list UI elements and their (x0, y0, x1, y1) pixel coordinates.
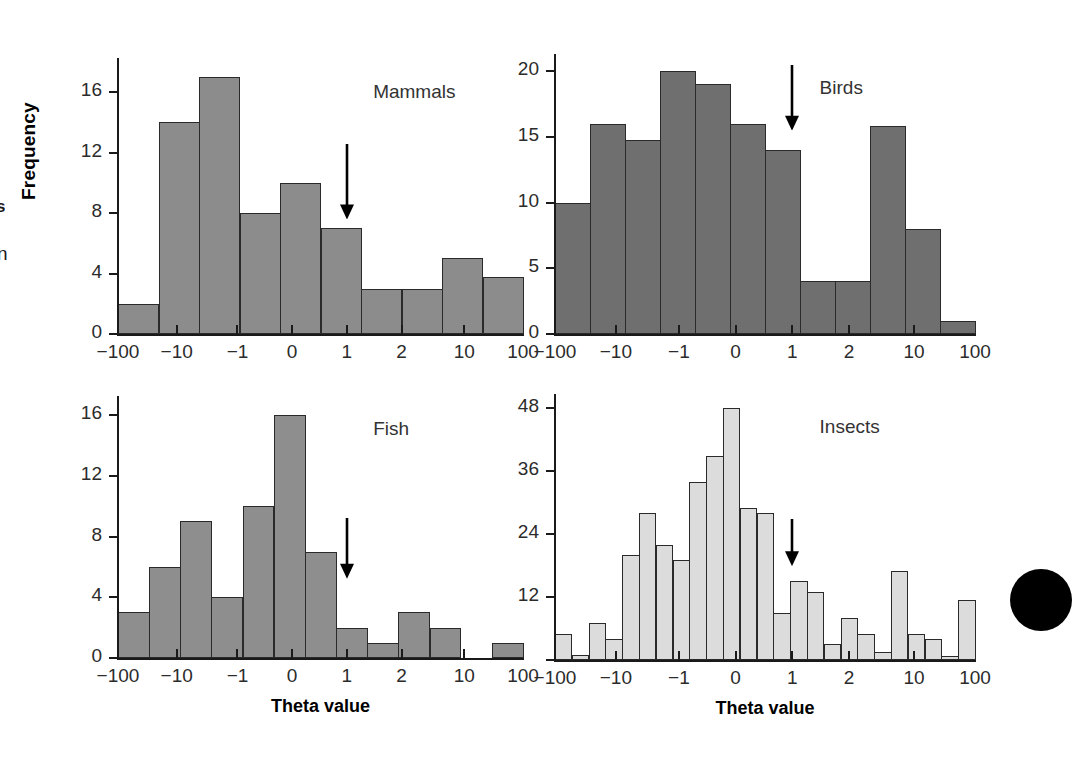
bar (773, 613, 790, 660)
y-tick-label: 24 (479, 521, 539, 543)
y-tick (546, 533, 555, 535)
y-tick (546, 407, 555, 409)
x-tick (401, 325, 403, 334)
bar (305, 552, 337, 658)
bar (689, 482, 706, 660)
x-axis-line (554, 334, 976, 336)
plot-area-insects: 12243648−100−10−101210100InsectsTheta va… (555, 398, 975, 660)
bar (639, 513, 656, 660)
bar (660, 71, 696, 334)
x-tick (346, 649, 348, 658)
down-arrow-icon (336, 144, 358, 220)
bar (430, 628, 462, 658)
y-tick (109, 475, 118, 477)
y-tick (109, 414, 118, 416)
y-tick-label: 0 (479, 321, 539, 343)
bar (118, 612, 150, 658)
x-tick-label: 100 (935, 341, 1015, 363)
x-tick (346, 325, 348, 334)
panel-mammals: 0481216−100−10−101210100Mammals (118, 62, 523, 394)
bar (870, 126, 906, 334)
y-tick (546, 136, 555, 138)
x-tick (463, 325, 465, 334)
down-arrow-icon (781, 519, 803, 566)
y-tick (109, 536, 118, 538)
bar (159, 122, 200, 334)
bar (673, 560, 690, 660)
bar (398, 612, 430, 658)
bar (243, 506, 275, 658)
bar (958, 600, 975, 660)
y-tick (109, 333, 118, 335)
bar (402, 289, 443, 334)
y-tick-label: 12 (42, 140, 102, 162)
y-tick-label: 0 (42, 321, 102, 343)
panel-fish: 0481216−100−10−101210100FishTheta value (118, 400, 523, 718)
y-tick (546, 70, 555, 72)
bar (274, 415, 306, 658)
y-tick (109, 212, 118, 214)
bar (118, 304, 159, 334)
bar (180, 521, 212, 658)
x-tick (463, 649, 465, 658)
bar (625, 140, 661, 335)
x-tick (176, 325, 178, 334)
y-tick-label: 48 (479, 395, 539, 417)
bar (590, 124, 626, 334)
down-arrow-icon (781, 65, 803, 131)
x-axis-line (117, 658, 524, 660)
bar (891, 571, 908, 660)
y-axis-line (554, 394, 556, 661)
y-axis-line (117, 396, 119, 659)
y-tick-label: 16 (42, 79, 102, 101)
bar (361, 289, 402, 334)
y-tick-label: 4 (42, 584, 102, 606)
y-tick (109, 657, 118, 659)
margin-fragment-top: s (0, 197, 5, 217)
x-axis-line (117, 334, 524, 336)
x-tick (791, 325, 793, 334)
y-tick-label: 5 (479, 255, 539, 277)
y-tick (546, 267, 555, 269)
panel-title-fish: Fish (373, 418, 409, 440)
x-tick (791, 651, 793, 660)
bar (765, 150, 801, 334)
bar (706, 456, 723, 660)
panel-title-mammals: Mammals (373, 81, 455, 103)
y-tick-label: 16 (42, 402, 102, 424)
x-tick (735, 325, 737, 334)
margin-fragment-bottom: n (0, 243, 8, 265)
y-tick-label: 8 (42, 524, 102, 546)
bar (807, 592, 824, 660)
bar (367, 643, 399, 658)
bar (280, 183, 321, 334)
y-tick-minor (546, 659, 555, 661)
bar (555, 203, 591, 334)
x-tick (678, 325, 680, 334)
x-tick (615, 325, 617, 334)
bar (857, 634, 874, 660)
y-tick (109, 152, 118, 154)
x-axis-line (554, 660, 976, 662)
bar (695, 84, 731, 334)
bar (874, 652, 891, 660)
x-tick (913, 325, 915, 334)
panel-insects: 12243648−100−10−101210100InsectsTheta va… (555, 398, 975, 720)
bar (925, 639, 942, 660)
bar (800, 281, 836, 334)
x-tick (678, 651, 680, 660)
panel-title-birds: Birds (820, 77, 863, 99)
bar (757, 513, 774, 660)
bar (555, 634, 572, 660)
x-tick (291, 325, 293, 334)
bar (824, 644, 841, 660)
bar (835, 281, 871, 334)
x-tick (913, 651, 915, 660)
y-tick-label: 10 (479, 190, 539, 212)
plot-area-birds: 05101520−100−10−101210100Birds (555, 58, 975, 334)
bar (336, 628, 368, 658)
bar (199, 77, 240, 334)
x-tick (291, 649, 293, 658)
y-tick (546, 470, 555, 472)
y-tick (109, 273, 118, 275)
